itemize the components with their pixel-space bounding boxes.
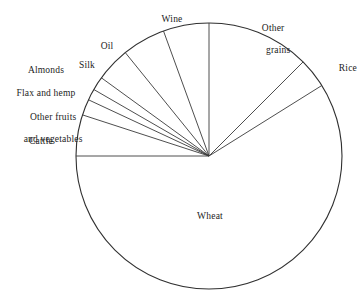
slice-label-wine: Wine bbox=[152, 14, 192, 25]
slice-label-cattle: Cattle bbox=[18, 136, 64, 147]
pie-chart-figure: Wine Other grains Rice Oil Silk Almonds … bbox=[0, 0, 361, 306]
slice-label-oil: Oil bbox=[94, 41, 120, 52]
slice-label-other-grains-line1: Other bbox=[262, 23, 285, 33]
slice-label-other-grains: Other grains bbox=[245, 12, 291, 67]
slice-label-other-fruits: Other fruits and vegetables bbox=[3, 101, 93, 156]
slice-label-silk: Silk bbox=[74, 60, 100, 71]
slice-label-rice: Rice bbox=[323, 63, 357, 74]
slice-label-other-fruits-line1: Other fruits bbox=[30, 112, 76, 122]
slice-label-other-grains-line2: grains bbox=[256, 45, 290, 56]
slice-label-flax-and-hemp: Flax and hemp bbox=[3, 88, 89, 99]
slice-label-wheat: Wheat bbox=[185, 211, 235, 222]
slice-label-almonds: Almonds bbox=[18, 65, 74, 76]
